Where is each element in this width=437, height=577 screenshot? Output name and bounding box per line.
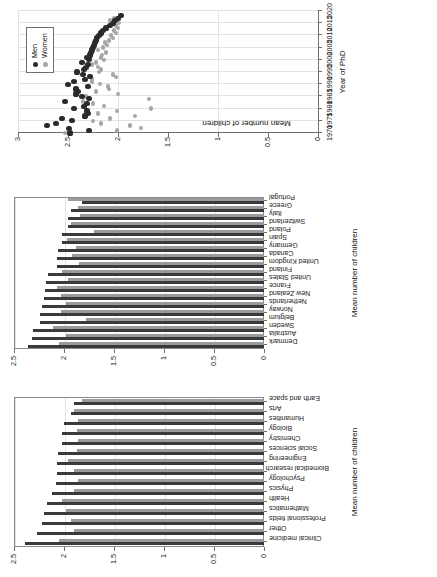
fields-ytick [64,547,65,551]
fields-ytick-label: 0 [259,554,268,577]
countries-category-label: Switzerland [269,218,329,225]
trend-point-men [80,72,85,77]
trend-point-men [86,128,91,133]
countries-bar-women [62,270,264,272]
panel-fields-bar-chart: 00.511.522.5Mean number of childrenClini… [0,377,437,577]
countries-category-label: Poland [269,226,329,233]
legend-label-women: Women [40,33,50,58]
countries-bar-women [72,254,264,256]
trend-point-men [62,99,67,104]
fields-bar-women [74,409,264,412]
legend-swatch-men [33,62,38,67]
fields-xtick [264,541,267,542]
fields-bar-women [74,529,264,532]
fields-bar-women [78,419,264,422]
countries-bar-women [76,246,264,248]
trend-point-men [65,82,70,87]
countries-xtick [264,280,267,281]
countries-xtick [264,312,267,313]
countries-ytick-label: 1 [159,356,168,377]
fields-category-label: Biology [269,425,329,432]
countries-xtick [264,224,267,225]
trend-point-men [53,121,58,126]
trend-point-men [84,101,89,106]
countries-xtick [264,344,267,345]
fields-ytick-label: 2 [59,554,68,577]
fields-category-label: Physics [269,485,329,492]
trend-point-men [44,123,49,128]
fields-category-label: Biomedical research [269,465,329,472]
countries-category-label: Australia [269,330,329,337]
fields-category-label: Mathematics [269,505,329,512]
countries-ytick [114,349,115,353]
countries-xtick [264,264,267,265]
countries-category-label: Denmark [269,338,329,345]
trend-ytick-label: 0 [313,137,322,167]
fields-bar-women [77,449,264,452]
trend-gridline-v [18,71,318,72]
trend-point-men [85,62,90,67]
panel-trend-scatter-chart: 1970197519801985199019952000200520102015… [0,0,437,177]
countries-category-label: United Kingdom [269,258,329,265]
fields-category-label: Professional fields [269,515,329,522]
countries-bar-men [82,201,264,203]
trend-x-axis-title: Year of PhD [338,32,347,112]
countries-xtick [264,216,267,217]
countries-category-label: Belgium [269,314,329,321]
countries-bar-men [48,273,264,275]
countries-ytick-label: 0.5 [209,356,218,377]
countries-bar-men [40,313,264,315]
countries-bar-men [42,305,264,307]
trend-ytick-label: 0.5 [263,137,272,167]
fields-bar-men [62,442,264,445]
countries-ytick [14,349,15,353]
countries-ytick-label: 2.5 [9,356,18,377]
countries-bar-men [46,281,264,283]
countries-bar-men [44,297,264,299]
fields-bar-men [64,422,264,425]
trend-point-men [66,126,71,131]
fields-xtick [264,431,267,432]
countries-bar-women [68,198,264,200]
trend-x-axis [318,11,319,133]
countries-bar-women [66,302,264,304]
panel-countries-bar-chart: 00.511.522.5Mean number of childrenDenma… [0,177,437,377]
fields-xtick [264,421,267,422]
fields-ytick-label: 0.5 [209,554,218,577]
trend-gridline-v [18,95,318,96]
fields-bar-men [37,532,264,535]
trend-point-men [71,79,76,84]
fields-bar-women [82,399,264,402]
countries-gridline [15,198,16,348]
fields-bar-women [71,519,264,522]
trend-point-men [85,84,90,89]
trend-ytick-label: 1 [213,137,222,167]
trend-plot-area [18,11,318,133]
countries-xtick [264,296,267,297]
countries-ytick [64,349,65,353]
trend-gridline-h [218,11,219,133]
countries-ytick-label: 0 [259,356,268,377]
figure-canvas: 00.511.522.5Mean number of childrenClini… [0,0,437,577]
countries-bar-women [59,342,264,344]
fields-xtick [264,531,267,532]
countries-category-label: France [269,282,329,289]
countries-bar-women [79,262,264,264]
fields-bar-women [59,539,264,542]
countries-xtick [264,200,267,201]
trend-point-women [149,106,154,111]
fields-xtick [264,461,267,462]
trend-point-women [111,72,116,77]
countries-category-label: New Zealand [269,290,329,297]
fields-xtick [264,401,267,402]
fields-category-label: Earth and space [269,395,329,402]
countries-xtick [264,288,267,289]
fields-bar-men [25,542,264,545]
countries-bar-women [53,326,264,328]
legend-row-men: Men [30,33,40,67]
countries-xtick [264,232,267,233]
trend-gridline-v [18,108,318,109]
trend-gridline-v [18,34,318,35]
fields-ytick [264,547,265,551]
trend-point-men [73,87,78,92]
